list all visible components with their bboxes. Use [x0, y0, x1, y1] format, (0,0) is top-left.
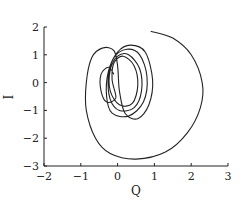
- x-tick-label: 2: [188, 170, 195, 183]
- y-tick-label: 2: [32, 21, 39, 34]
- x-tick-label: −1: [73, 170, 89, 183]
- y-tick-label: 1: [32, 49, 39, 62]
- phase-plot: 210−1−2−3 −2−10123 Q I: [0, 0, 242, 203]
- y-axis-label: I: [2, 94, 16, 99]
- x-tick-label: 3: [225, 170, 232, 183]
- y-tick-label: −2: [23, 132, 39, 145]
- y-ticks: 210−1−2−3: [23, 21, 47, 173]
- x-tick-label: 0: [114, 170, 121, 183]
- x-tick-label: −2: [36, 170, 52, 183]
- trajectory-curve: [85, 31, 203, 159]
- y-tick-label: 0: [32, 77, 39, 90]
- x-axis-label: Q: [131, 184, 141, 198]
- x-tick-label: 1: [151, 170, 158, 183]
- y-tick-label: −1: [23, 104, 39, 117]
